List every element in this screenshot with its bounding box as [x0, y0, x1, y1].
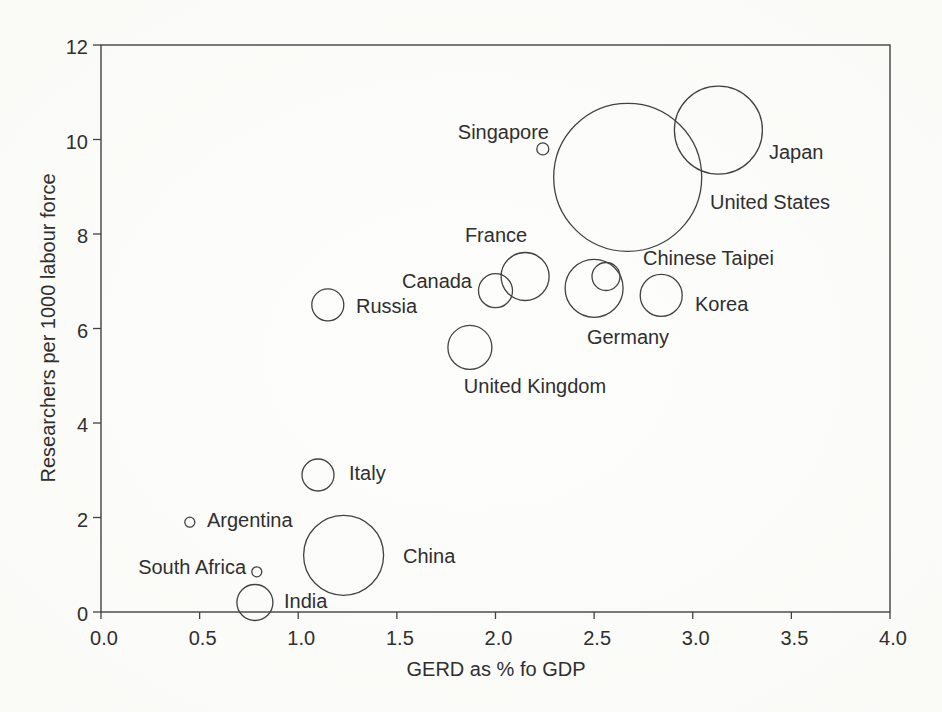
bubble-chart: 0.00.51.01.52.02.53.03.54.0024681012 Sou… — [0, 0, 942, 712]
bubble-france — [501, 253, 549, 301]
country-labels: South AfricaArgentinaIndiaChinaItalyRuss… — [138, 121, 830, 612]
bubble-italy — [302, 459, 334, 491]
y-tick-label-2: 2 — [77, 509, 88, 531]
bubble-canada — [479, 274, 513, 308]
y-axis-title: Researchers per 1000 labour force — [37, 173, 59, 482]
bubble-japan — [674, 86, 762, 174]
label-south-africa: South Africa — [138, 556, 247, 578]
label-argentina: Argentina — [207, 509, 293, 531]
x-tick-label-0.5: 0.5 — [189, 627, 217, 649]
label-united-kingdom: United Kingdom — [464, 375, 606, 397]
label-india: India — [284, 590, 328, 612]
x-tick-label-0.0: 0.0 — [90, 627, 118, 649]
x-tick-label-1.0: 1.0 — [287, 627, 315, 649]
y-tick-label-10: 10 — [66, 131, 88, 153]
label-korea: Korea — [695, 293, 749, 315]
x-tick-label-3.0: 3.0 — [682, 627, 710, 649]
x-tick-label-1.5: 1.5 — [386, 627, 414, 649]
bubble-chinese-taipei — [592, 263, 620, 291]
bubble-russia — [312, 289, 344, 321]
y-tick-label-4: 4 — [77, 414, 88, 436]
chart-page: 0.00.51.01.52.02.53.03.54.0024681012 Sou… — [0, 0, 942, 712]
x-tick-label-4.0: 4.0 — [879, 627, 907, 649]
label-united-states: United States — [710, 191, 830, 213]
label-france: France — [465, 224, 527, 246]
bubble-china — [304, 515, 384, 595]
label-japan: Japan — [769, 141, 824, 163]
bubbles — [185, 86, 763, 620]
label-germany: Germany — [587, 326, 669, 348]
bubble-singapore — [537, 143, 549, 155]
bubble-united-states — [554, 103, 702, 251]
bubble-argentina — [185, 517, 195, 527]
bubble-south-africa — [252, 567, 262, 577]
x-tick-label-2.5: 2.5 — [583, 627, 611, 649]
x-tick-label-2.0: 2.0 — [485, 627, 513, 649]
label-italy: Italy — [349, 462, 386, 484]
label-russia: Russia — [356, 295, 418, 317]
label-china: China — [403, 545, 456, 567]
x-tick-label-3.5: 3.5 — [780, 627, 808, 649]
label-singapore: Singapore — [458, 121, 549, 143]
bubble-india — [237, 585, 273, 621]
x-axis-title: GERD as % fo GDP — [407, 658, 586, 680]
y-tick-label-6: 6 — [77, 320, 88, 342]
label-chinese-taipei: Chinese Taipei — [643, 247, 774, 269]
y-tick-label-8: 8 — [77, 225, 88, 247]
bubble-korea — [640, 274, 682, 316]
label-canada: Canada — [402, 270, 473, 292]
y-tick-label-0: 0 — [77, 603, 88, 625]
bubble-united-kingdom — [448, 325, 492, 369]
y-tick-label-12: 12 — [66, 36, 88, 58]
